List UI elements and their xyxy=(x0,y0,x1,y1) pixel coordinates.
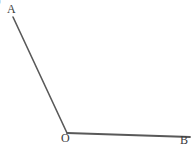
angle-diagram-canvas: ) A O B xyxy=(0,0,193,145)
point-label-a: A xyxy=(7,3,16,15)
point-label-b: B xyxy=(180,134,188,145)
ray-ob-line xyxy=(67,133,190,137)
point-label-o: O xyxy=(61,132,70,144)
ray-oa-line xyxy=(13,17,67,133)
angle-figure-svg xyxy=(0,0,193,145)
